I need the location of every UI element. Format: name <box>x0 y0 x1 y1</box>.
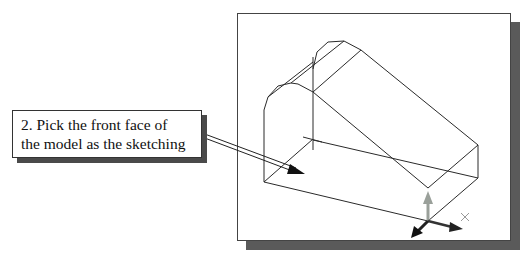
edge <box>313 50 361 92</box>
callout-line-1: 2. Pick the front face of <box>21 115 201 134</box>
edge <box>428 178 478 221</box>
callout-line-2: the model as the sketching <box>21 134 201 153</box>
edge <box>291 41 344 83</box>
back-profile-edge <box>313 41 361 69</box>
bottom-back-edge <box>313 140 478 178</box>
top-front-edge <box>313 92 428 188</box>
callout-box: 2. Pick the front face of the model as t… <box>12 110 202 158</box>
edge <box>264 139 313 182</box>
top-back-edge <box>361 50 478 145</box>
edge <box>428 145 478 188</box>
axis-triad-icon <box>411 191 469 238</box>
edge <box>268 62 313 97</box>
bottom-front-edge <box>264 182 428 221</box>
callout-arrow <box>202 133 305 174</box>
front-profile-edge <box>264 83 313 182</box>
